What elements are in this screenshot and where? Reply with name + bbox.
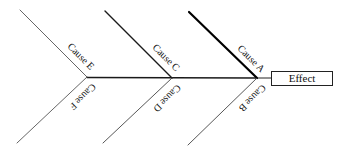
fishbone-diagram: Cause A Cause C Cause E Cause B Cause D … [0, 0, 351, 152]
cause-c-label: Cause C [151, 42, 183, 74]
cause-d-label: Cause D [151, 83, 183, 115]
cause-e-label: Cause E [66, 41, 97, 72]
effect-label: Effect [289, 72, 316, 84]
cause-b-label: Cause B [237, 83, 269, 115]
cause-a-label: Cause A [236, 43, 268, 75]
cause-f-label: Cause F [67, 82, 98, 113]
